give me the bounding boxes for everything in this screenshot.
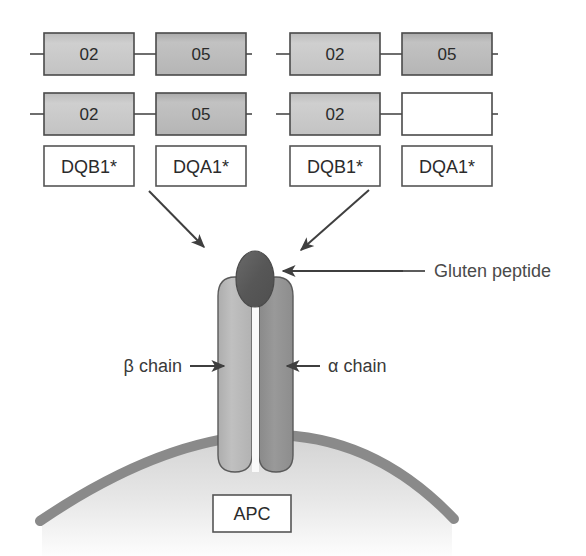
gluten-peptide-label: Gluten peptide	[434, 261, 551, 281]
allele-box-text: 05	[192, 105, 211, 124]
gene-label-box-dqa1-right[interactable]: DQA1*	[402, 146, 492, 186]
allele-box-text: 05	[192, 45, 211, 64]
apc-label-box[interactable]: APC	[213, 495, 291, 532]
allele-box-dqb1-02-b[interactable]: 02	[290, 93, 380, 135]
gluten-peptide-shape	[236, 251, 274, 307]
allele-box-text: 02	[80, 105, 99, 124]
allele-box-text: 02	[326, 105, 345, 124]
allele-box-text: 02	[80, 45, 99, 64]
mhc-peptide-groove	[252, 292, 259, 472]
gene-label-box-dqa1-left[interactable]: DQA1*	[156, 146, 246, 186]
figure-canvas: 02 05 02 05 DQB1	[0, 0, 586, 556]
allele-box-dqb1-02-a[interactable]: 02	[290, 33, 380, 75]
mhc-class-ii-molecule	[218, 251, 293, 472]
alpha-chain-label: α chain	[328, 356, 386, 376]
allele-box-text: 05	[438, 45, 457, 64]
figure-root: 02 05 02 05 DQB1	[0, 0, 586, 556]
allele-box-text: 02	[326, 45, 345, 64]
allele-box-dqa1-absent[interactable]	[402, 93, 492, 135]
gene-label-box-text: DQB1*	[307, 157, 363, 177]
haplotype-group-trans: 02 05 02 DQB1*	[276, 33, 498, 186]
arrow-right-haplotype-to-mhc	[301, 190, 369, 250]
gene-label-box-text: DQA1*	[173, 157, 229, 177]
allele-box-dqb1-02-b[interactable]: 02	[44, 93, 134, 135]
arrow-left-haplotype-to-mhc	[149, 191, 204, 247]
allele-box-dqb1-02-a[interactable]: 02	[44, 33, 134, 75]
allele-box-rect-empty	[402, 93, 492, 135]
allele-box-dqa1-05-a[interactable]: 05	[156, 33, 246, 75]
gene-label-box-text: DQA1*	[419, 157, 475, 177]
beta-chain-label: β chain	[124, 356, 182, 376]
mhc-beta-chain	[218, 277, 252, 472]
gene-label-box-text: DQB1*	[61, 157, 117, 177]
gene-label-box-dqb1-left[interactable]: DQB1*	[44, 146, 134, 186]
haplotype-group-cis: 02 05 02 05 DQB1	[30, 33, 252, 186]
apc-label-box-text: APC	[233, 504, 270, 524]
mhc-alpha-chain	[259, 277, 293, 472]
allele-box-dqa1-05-b[interactable]: 05	[156, 93, 246, 135]
gene-label-box-dqb1-right[interactable]: DQB1*	[290, 146, 380, 186]
allele-box-dqa1-05-a[interactable]: 05	[402, 33, 492, 75]
